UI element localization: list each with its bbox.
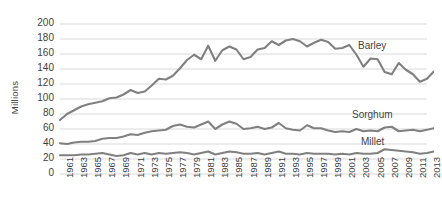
x-tick-label: 1973 — [149, 157, 160, 178]
x-tick-label: 2001 — [346, 157, 357, 178]
x-tick-label: 1991 — [276, 157, 287, 178]
series-label-sorghum: Sorghum — [352, 109, 393, 120]
x-tick-label: 1981 — [205, 157, 216, 178]
x-tick-label: 1979 — [191, 157, 202, 178]
series-label-millet: Millet — [361, 136, 384, 147]
x-tick-label: 1975 — [163, 157, 174, 178]
x-tick-label: 1999 — [332, 157, 343, 178]
x-tick-label: 1969 — [120, 157, 131, 178]
x-tick-label: 1997 — [318, 157, 329, 178]
x-tick-label: 1983 — [219, 157, 230, 178]
x-tick-label: 2009 — [403, 157, 414, 178]
x-tick-label: 1995 — [304, 157, 315, 178]
x-tick-label: 1985 — [233, 157, 244, 178]
x-tick-label: 1971 — [135, 157, 146, 178]
x-tick-label: 1965 — [92, 157, 103, 178]
x-tick-label: 1961 — [64, 157, 75, 178]
series-label-barley: Barley — [358, 40, 386, 51]
x-tick-label: 1967 — [106, 157, 117, 178]
x-tick-label: 1987 — [248, 157, 259, 178]
x-tick-label: 2007 — [389, 157, 400, 178]
x-tick-label: 2005 — [375, 157, 386, 178]
x-tick-label: 2013 — [431, 157, 442, 178]
x-tick-label: 1989 — [262, 157, 273, 178]
x-tick-label: 1977 — [177, 157, 188, 178]
x-tick-label: 2003 — [360, 157, 371, 178]
x-tick-label: 2011 — [417, 158, 428, 178]
x-tick-label: 1993 — [290, 157, 301, 178]
x-tick-label: 1963 — [78, 157, 89, 178]
